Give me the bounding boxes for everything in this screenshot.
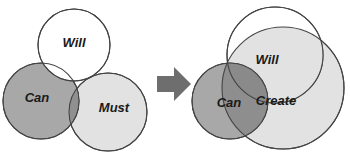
label-create: Create [256,93,296,108]
label-will: Will [63,35,86,50]
diagram-canvas: Will Can Must [0,0,350,167]
label-must: Must [99,100,130,115]
venn-transformation-diagram: Will Can Must [0,0,350,167]
label-will-right: Will [256,52,279,67]
label-can: Can [25,90,50,105]
label-can-right: Can [217,95,242,110]
